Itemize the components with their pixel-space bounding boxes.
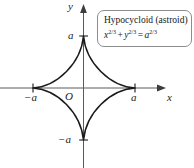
tick-label-x-positive: a	[131, 92, 137, 103]
x-axis-label: x	[167, 92, 172, 103]
tick-label-y-negative: −a	[58, 134, 71, 145]
equation-x-exponent: 2/3	[108, 29, 116, 35]
origin-label: O	[65, 91, 73, 102]
tick-label-y-positive: a	[68, 30, 74, 41]
tick-label-x-negative: −a	[24, 92, 37, 103]
y-axis-label: y	[68, 1, 73, 12]
astroid-figure: y x O a −a a −a Hypocycloid (astroid) x2…	[0, 0, 194, 168]
equation-y-exponent: 2/3	[128, 29, 136, 35]
x-axis-arrowhead	[157, 85, 166, 92]
y-axis-arrowhead	[80, 4, 87, 13]
callout-equation: x2/3+y2/3=a2/3	[104, 29, 186, 41]
equation-plus: +	[116, 30, 124, 40]
callout-title: Hypocycloid (astroid)	[104, 15, 186, 26]
equation-equals: =	[136, 30, 144, 40]
equation-a-exponent: 2/3	[149, 29, 157, 35]
callout-box: Hypocycloid (astroid) x2/3+y2/3=a2/3	[97, 10, 192, 47]
